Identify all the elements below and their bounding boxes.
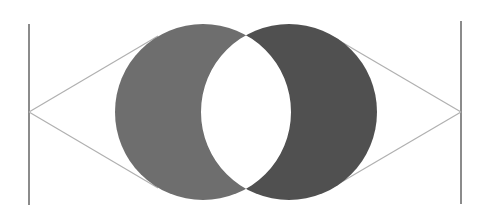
crescent-tangent-diagram [0,0,487,217]
left-crescent [115,24,291,200]
diagram-canvas [0,0,487,217]
right-crescent [201,24,377,200]
